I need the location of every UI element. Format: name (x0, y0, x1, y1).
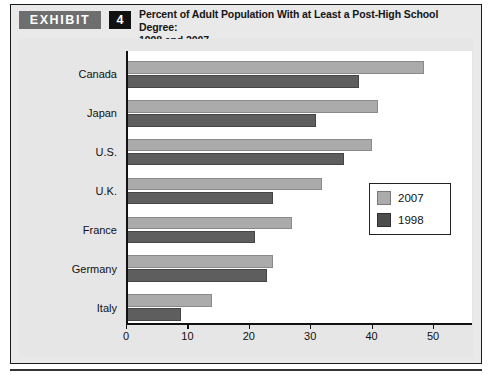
category-label-france: France (83, 224, 117, 236)
x-axis-tick-label: 30 (304, 330, 316, 342)
x-axis-tick-label: 10 (181, 330, 193, 342)
bar-us-1998 (126, 153, 344, 166)
bar-uk-1998 (126, 192, 273, 205)
exhibit-header: EXHIBIT 4 Percent of Adult Population Wi… (11, 5, 481, 41)
category-label-canada: Canada (78, 68, 117, 80)
bar-us-2007 (126, 139, 372, 152)
bar-canada-2007 (126, 61, 424, 74)
chart-panel: CanadaJapanU.S.U.K.FranceGermanyItaly 01… (19, 39, 473, 357)
y-axis-line (126, 51, 128, 323)
x-axis-line (126, 323, 472, 325)
x-axis-tick-label: 0 (123, 330, 129, 342)
x-axis-tick (310, 324, 311, 329)
legend-swatch-1998-icon (377, 213, 391, 227)
bar-japan-2007 (126, 100, 378, 113)
bar-france-1998 (126, 231, 255, 244)
bottom-rule-divider (10, 369, 482, 371)
x-axis-tick (187, 324, 188, 329)
legend-label-2007: 2007 (398, 190, 424, 206)
x-axis-tick (372, 324, 373, 329)
category-label-us: U.S. (96, 146, 117, 158)
x-axis-tick (433, 324, 434, 329)
category-label-italy: Italy (97, 302, 117, 314)
exhibit-number-badge: 4 (109, 11, 131, 29)
legend-label-1998: 1998 (398, 212, 424, 228)
bar-italy-2007 (126, 294, 212, 307)
x-axis-tick-label: 20 (243, 330, 255, 342)
category-label-japan: Japan (87, 107, 117, 119)
exhibit-title-line-1: Percent of Adult Population With at Leas… (139, 8, 438, 33)
chart-legend: 2007 1998 (369, 183, 451, 235)
x-axis-tick-label: 40 (365, 330, 377, 342)
x-axis-tick (126, 324, 127, 329)
x-axis-tick-label: 50 (427, 330, 439, 342)
bar-italy-1998 (126, 308, 181, 321)
category-label-germany: Germany (72, 263, 117, 275)
legend-swatch-2007-icon (377, 191, 391, 205)
x-axis-tick (249, 324, 250, 329)
bar-canada-1998 (126, 75, 359, 88)
bar-uk-2007 (126, 178, 322, 191)
bar-germany-2007 (126, 255, 273, 268)
exhibit-tag-label: EXHIBIT (19, 11, 101, 29)
bar-japan-1998 (126, 114, 316, 127)
category-label-uk: U.K. (96, 185, 117, 197)
bar-germany-1998 (126, 269, 267, 282)
exhibit-frame: EXHIBIT 4 Percent of Adult Population Wi… (10, 4, 482, 364)
bar-france-2007 (126, 217, 292, 230)
